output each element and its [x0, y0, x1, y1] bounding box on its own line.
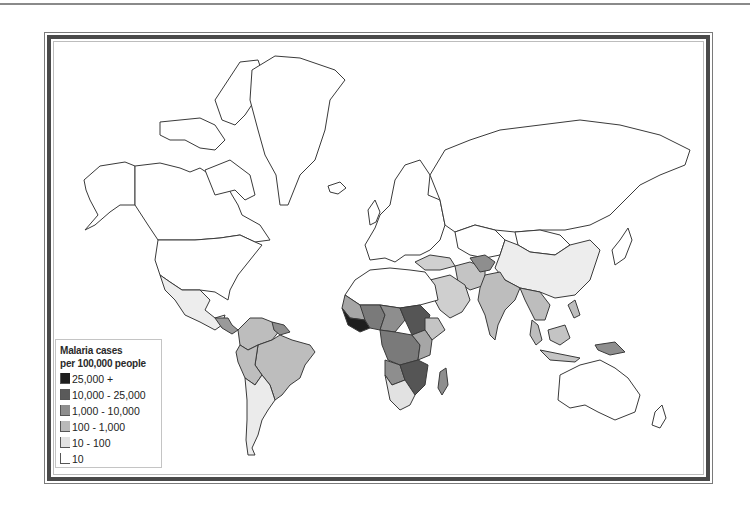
legend-swatch-100-1000	[60, 421, 70, 432]
legend-swatch-10000-25000	[60, 389, 70, 400]
region-russia	[430, 120, 690, 232]
legend-title-line2: per 100,000 people	[60, 357, 161, 370]
region-malay	[530, 320, 542, 345]
region-iceland	[328, 182, 346, 194]
top-divider-line	[0, 3, 750, 5]
legend-item: 10	[60, 451, 161, 466]
region-philippines	[568, 300, 580, 318]
legend-label: 10 - 100	[72, 437, 111, 449]
legend-label: 25,000 +	[72, 373, 113, 385]
region-borneo	[548, 325, 570, 345]
region-southern-cone	[245, 375, 275, 455]
region-japan	[612, 228, 632, 265]
region-alaska	[84, 162, 135, 230]
region-australia	[558, 360, 640, 420]
legend-item: 10 - 100	[60, 435, 161, 450]
region-north-africa	[345, 268, 438, 308]
legend-swatch-1000-10000	[60, 405, 70, 416]
region-indonesia	[540, 350, 580, 362]
region-new-zealand	[652, 405, 666, 428]
legend-item: 25,000 +	[60, 371, 161, 386]
legend-title-line1: Malaria cases	[60, 344, 161, 357]
legend-label: 1,000 - 10,000	[72, 405, 140, 417]
legend-swatch-25000-plus	[60, 373, 70, 384]
map-legend: Malaria cases per 100,000 people 25,000 …	[55, 339, 162, 468]
region-arctic-islands	[160, 118, 225, 150]
legend-label: 100 - 1,000	[72, 421, 125, 433]
legend-swatch-10-100	[60, 437, 70, 448]
legend-label: 10,000 - 25,000	[72, 389, 146, 401]
region-greenland	[250, 56, 345, 205]
legend-item: 100 - 1,000	[60, 419, 161, 434]
region-madagascar	[438, 368, 448, 395]
region-papua	[595, 342, 625, 355]
legend-label: 10	[72, 453, 84, 465]
region-turkey	[415, 255, 455, 270]
legend-item: 1,000 - 10,000	[60, 403, 161, 418]
legend-swatch-10	[60, 453, 70, 464]
legend-item: 10,000 - 25,000	[60, 387, 161, 402]
